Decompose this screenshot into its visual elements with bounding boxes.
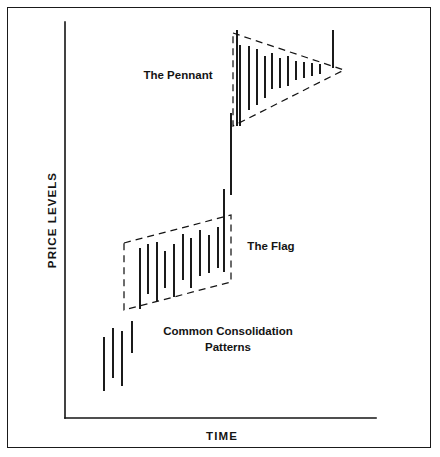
caption-line-1: Common Consolidation bbox=[163, 325, 293, 337]
flag-label: The Flag bbox=[247, 240, 294, 252]
figure-page: PRICE LEVELS TIME The PennantThe FlagCom… bbox=[0, 0, 440, 457]
caption-line-2: Patterns bbox=[205, 341, 251, 353]
x-axis-label: TIME bbox=[206, 430, 238, 442]
uptrend-leading-bars bbox=[104, 321, 132, 391]
flag-breakout-bars bbox=[224, 30, 237, 272]
flag-consolidation-bars bbox=[140, 227, 218, 309]
pennant-consolidation-bars bbox=[240, 45, 320, 126]
chart-axes bbox=[65, 22, 376, 418]
pennant-label: The Pennant bbox=[143, 69, 212, 81]
chart-annotations: The PennantThe FlagCommon ConsolidationP… bbox=[143, 69, 294, 353]
y-axis-label: PRICE LEVELS bbox=[46, 172, 58, 268]
consolidation-patterns-chart: PRICE LEVELS TIME The PennantThe FlagCom… bbox=[0, 0, 440, 457]
